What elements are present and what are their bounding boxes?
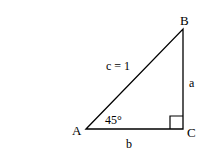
vertex-label-c: C (187, 125, 196, 140)
vertex-label-b: B (180, 13, 189, 28)
right-triangle-diagram: B A C c = 1 a b 45° (0, 0, 202, 152)
vertex-label-a: A (72, 123, 82, 138)
triangle-shape (86, 29, 183, 129)
side-a-label: a (189, 76, 195, 90)
hypotenuse-label: c = 1 (106, 59, 130, 73)
right-angle-marker (170, 116, 183, 129)
side-b-label: b (126, 137, 132, 151)
angle-a-label: 45° (105, 113, 122, 127)
